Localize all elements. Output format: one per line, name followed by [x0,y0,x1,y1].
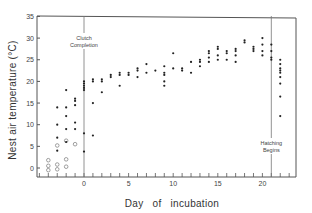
y-tick-label: 20 [26,78,34,85]
filled-dot-point [74,98,76,100]
filled-dot-point [279,59,281,61]
open-circle-point [64,165,68,169]
filled-dot-point [226,52,228,54]
filled-dot-point [235,54,237,56]
filled-dot-point [119,74,121,76]
filled-dot-point [217,46,219,48]
filled-dot-point [65,128,67,130]
filled-dot-point [163,72,165,74]
filled-dot-point [181,67,183,69]
filled-dot-point [128,72,130,74]
filled-dot-point [243,41,245,43]
y-tick-label: 15 [26,100,34,107]
top-border [37,16,296,18]
filled-dot-point [110,74,112,76]
y-tick-label: 5 [30,143,34,150]
filled-dot-point [101,91,103,93]
open-circle-point [55,167,59,171]
filled-dot-point [279,95,281,97]
open-circle-point [47,158,51,162]
filled-dot-point [261,43,263,45]
filled-dot-point [56,137,58,139]
filled-dot-point [154,69,156,71]
filled-dot-point [145,72,147,74]
filled-dot-point [270,56,272,58]
y-axis: 05101520253035 [26,13,40,172]
filled-dot-point [83,89,85,91]
filled-dot-point [119,85,121,87]
filled-dot-point [83,132,85,134]
filled-dot-point [119,72,121,74]
filled-dot-point [208,56,210,58]
filled-dot-point [279,76,281,78]
open-circle-point [55,144,59,148]
filled-dot-point [136,69,138,71]
annotation-label: Clutch [76,35,92,41]
filled-dot-point [92,78,94,80]
filled-dot-point [252,48,254,50]
filled-dot-point [65,141,67,143]
filled-dot-point [83,80,85,82]
filled-dot-point [190,72,192,74]
filled-dot-point [101,78,103,80]
filled-dot-point [243,39,245,41]
filled-dot-point [172,52,174,54]
filled-dot-point [136,76,138,78]
filled-dot-point [74,128,76,130]
filled-dot-point [92,102,94,104]
filled-dot-point [261,37,263,39]
filled-dot-point [217,54,219,56]
filled-dot-point [65,106,67,108]
open-circle-point [47,164,51,168]
y-tick-label: 35 [26,13,34,20]
y-tick-label: 30 [26,35,34,42]
y-tick-label: 10 [26,121,34,128]
filled-dot-point [56,124,58,126]
filled-dot-point [56,106,58,108]
x-tick-label: 15 [214,180,222,187]
filled-dot-point [65,115,67,117]
filled-dot-point [74,100,76,102]
annotations: ClutchCompletionHatchingBegins [70,16,282,177]
scatter-chart: 05101520253035 05101520 ClutchCompletion… [0,0,312,213]
filled-dot-point [83,85,85,87]
filled-dot-point [163,65,165,67]
open-circle-point [47,168,51,172]
filled-dot-point [235,61,237,63]
filled-dot-point [279,69,281,71]
filled-dot-point [208,61,210,63]
filled-dot-point [226,50,228,52]
filled-dot-point [83,150,85,152]
filled-dot-point [128,74,130,76]
filled-dot-point [181,69,183,71]
x-tick-label: 20 [259,180,267,187]
filled-dot-point [190,61,192,63]
filled-dot-point [270,59,272,61]
filled-dot-point [74,121,76,123]
open-circle-point [55,163,59,167]
y-tick-label: 25 [26,56,34,63]
x-axis-title: Day of incubation [125,198,219,209]
data-points [47,37,282,172]
filled-dot-point [270,50,272,52]
filled-dot-point [110,76,112,78]
filled-dot-point [199,61,201,63]
filled-dot-point [199,65,201,67]
filled-dot-point [217,59,219,61]
filled-dot-point [199,59,201,61]
y-tick-label: 0 [30,165,34,172]
x-tick-label: 0 [82,180,86,187]
filled-dot-point [136,67,138,69]
filled-dot-point [235,50,237,52]
filled-dot-point [74,104,76,106]
annotation-label: Completion [70,42,98,48]
filled-dot-point [226,59,228,61]
filled-dot-point [279,72,281,74]
annotation-label: Begins [263,147,280,153]
x-axis: 05101520 [39,173,289,187]
filled-dot-point [172,67,174,69]
filled-dot-point [252,46,254,48]
x-tick-label: 5 [127,180,131,187]
filled-dot-point [261,54,263,56]
filled-dot-point [279,67,281,69]
